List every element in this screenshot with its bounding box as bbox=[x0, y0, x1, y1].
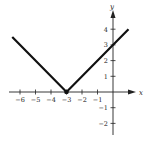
y-tick-label: −1 bbox=[98, 104, 108, 112]
graph-absolute-value: −6−5−4−3−2−1 x −2−11234 y bbox=[0, 0, 145, 144]
x-tick-label: −6 bbox=[15, 96, 25, 104]
y-tick-label: −2 bbox=[98, 120, 108, 128]
y-tick-label: 4 bbox=[104, 26, 108, 34]
y-tick-label: 1 bbox=[104, 73, 108, 81]
x-tick-label: −1 bbox=[93, 96, 103, 104]
y-axis: −2−11234 y bbox=[98, 3, 115, 135]
x-axis: −6−5−4−3−2−1 x bbox=[9, 89, 143, 105]
x-axis-label: x bbox=[139, 89, 143, 97]
vertex-point bbox=[64, 90, 69, 95]
x-tick-label: −2 bbox=[77, 96, 87, 104]
y-axis-label: y bbox=[109, 3, 115, 11]
y-tick-label: 2 bbox=[104, 57, 108, 65]
x-tick-label: −4 bbox=[46, 96, 56, 104]
x-tick-label: −3 bbox=[62, 96, 72, 104]
x-tick-label: −5 bbox=[31, 96, 41, 104]
y-tick-label: 3 bbox=[104, 41, 108, 49]
